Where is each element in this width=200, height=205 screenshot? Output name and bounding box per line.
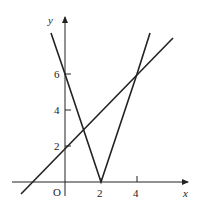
series-abs-line [51,33,150,182]
origin-label: O [53,186,61,198]
y-tick-label-6: 6 [54,68,60,80]
x-axis-label: x [182,187,188,199]
function-graph: y x O 2 4 2 4 6 [0,0,200,205]
y-axis-label: y [47,14,53,26]
x-ticks [101,176,137,182]
x-tick-label-4: 4 [133,187,139,199]
y-tick-label-4: 4 [54,104,60,116]
y-tick-label-2: 2 [54,140,60,152]
x-tick-label-2: 2 [97,187,103,199]
